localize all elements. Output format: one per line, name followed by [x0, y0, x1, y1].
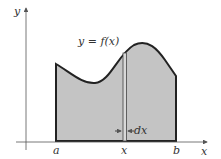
bound-a-label: a [53, 144, 60, 157]
dx-strip [123, 53, 127, 141]
equation-label: y = f(x) [77, 35, 119, 48]
strip-x-label: x [121, 144, 128, 157]
dx-label: dx [134, 124, 148, 137]
shaded-area [56, 43, 176, 141]
x-axis-label: x [201, 145, 208, 158]
area-diagram: y x y = f(x) a b x dx [0, 0, 221, 159]
y-axis-label: y [13, 5, 21, 18]
bound-b-label: b [173, 144, 180, 157]
